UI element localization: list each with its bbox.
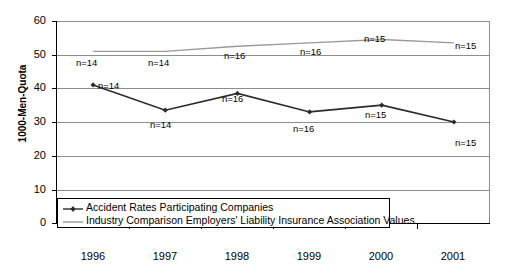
chart-legend: Accident Rates Participating Companies I…	[57, 198, 390, 228]
series-line-industry-comparison	[93, 40, 454, 52]
annotation-gray-2000: n=15	[364, 34, 385, 44]
data-point	[451, 119, 456, 124]
annotation-dark-1996: n=14	[98, 81, 119, 91]
annotation-gray-1997: n=14	[148, 58, 169, 68]
annotation-gray-1998: n=16	[224, 51, 245, 61]
annotation-gray-1999: n=16	[300, 47, 321, 57]
legend-key-accident-rates	[62, 201, 84, 213]
annotation-dark-2001: n=15	[455, 138, 476, 148]
legend-item-industry-comparison[interactable]: Industry Comparison Employers' Liability…	[62, 213, 415, 226]
legend-label-industry-comparison: Industry Comparison Employers' Liability…	[84, 214, 415, 226]
annotation-dark-1997: n=14	[150, 120, 171, 130]
legend-item-accident-rates[interactable]: Accident Rates Participating Companies	[62, 200, 273, 213]
series-line-accident-rates	[93, 85, 454, 122]
annotation-gray-2001: n=15	[455, 41, 476, 51]
data-point	[379, 103, 384, 108]
annotation-dark-1998: n=16	[222, 94, 243, 104]
annotation-dark-1999: n=16	[293, 124, 314, 134]
line-chart: 1000-Men-Quota 60 50 40 30 20 10 0 1996 …	[0, 0, 506, 277]
data-point	[163, 108, 168, 113]
series-layer	[0, 0, 506, 277]
annotation-dark-2000: n=15	[365, 110, 386, 120]
annotation-gray-1996: n=14	[76, 58, 97, 68]
legend-key-industry-comparison	[62, 214, 84, 226]
data-point	[90, 82, 95, 87]
legend-label-accident-rates: Accident Rates Participating Companies	[84, 201, 273, 213]
data-point	[307, 109, 312, 114]
